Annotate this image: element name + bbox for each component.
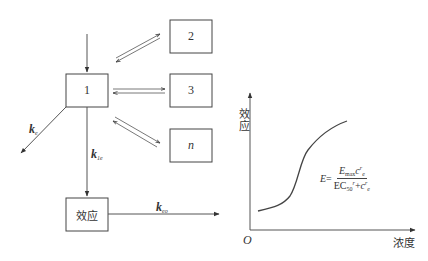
compartment-n-label: n bbox=[170, 129, 212, 162]
y-axis-label: 效应 bbox=[235, 108, 251, 132]
elimination-arrow bbox=[21, 107, 66, 153]
exchange-arrow-1-3 bbox=[113, 89, 165, 93]
emax-equation: E= Emaxcre EC50r+cre bbox=[320, 165, 370, 192]
rate-constant-k1e: k1e bbox=[91, 148, 103, 161]
x-axis-label: 浓度 bbox=[393, 238, 415, 249]
effect-box-label: 效应 bbox=[66, 198, 108, 231]
equation-denominator: EC50r+cre bbox=[334, 179, 370, 192]
exchange-arrow-1-n bbox=[113, 117, 160, 147]
equation-numerator: Emaxcre bbox=[337, 165, 367, 179]
equation-lhs: E= bbox=[320, 173, 332, 184]
origin-label: O bbox=[243, 234, 252, 246]
compartment-3-label: 3 bbox=[170, 74, 212, 107]
rate-constant-ke: ke bbox=[29, 123, 38, 136]
equation-fraction: Emaxcre EC50r+cre bbox=[334, 165, 370, 192]
diagram-canvas bbox=[0, 0, 428, 261]
rate-constant-keo: keo bbox=[156, 201, 168, 214]
exchange-arrow-1-2 bbox=[116, 34, 160, 62]
compartment-1-label: 1 bbox=[66, 74, 108, 107]
compartment-2-label: 2 bbox=[170, 20, 212, 53]
